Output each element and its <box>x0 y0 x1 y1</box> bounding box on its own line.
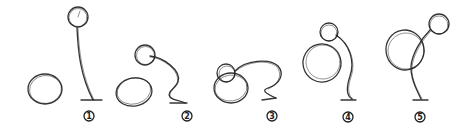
stage-5-ball <box>383 27 427 73</box>
svg-text:4: 4 <box>345 113 351 122</box>
stage-5-figure <box>411 14 449 100</box>
stage-4-figure <box>320 23 356 100</box>
stage-3: 3 <box>213 61 281 121</box>
svg-text:5: 5 <box>417 113 423 122</box>
stage-5: 5 <box>383 14 449 122</box>
stage-1-upright-figure <box>68 7 102 100</box>
svg-text:2: 2 <box>184 112 190 121</box>
stage-4: 4 <box>299 23 356 122</box>
stage-3-curled-figure <box>217 61 281 100</box>
stage-4-ball <box>299 40 346 87</box>
stage-5-label: 5 <box>415 112 425 122</box>
stage-1: 1 <box>28 7 102 121</box>
stage-2-label: 2 <box>182 111 192 121</box>
stage-2: 2 <box>114 45 192 121</box>
stage-2-ball <box>114 74 154 109</box>
stage-2-bending-figure <box>135 45 187 103</box>
svg-text:1: 1 <box>86 112 92 121</box>
stage-3-label: 3 <box>267 111 277 121</box>
sketch-canvas: 1 2 <box>0 0 473 131</box>
stage-1-loose-ball <box>28 74 63 105</box>
svg-text:3: 3 <box>269 112 275 121</box>
stage-1-label: 1 <box>84 111 94 121</box>
stage-4-label: 4 <box>343 112 353 122</box>
